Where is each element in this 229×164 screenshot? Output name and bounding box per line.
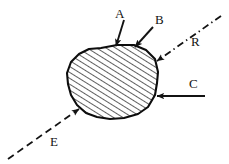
- vector-label-e: E: [50, 134, 58, 149]
- vector-arrow-e: [8, 109, 79, 159]
- vector-label-a: A: [115, 6, 125, 21]
- vector-label-c: C: [189, 76, 198, 91]
- vector-arrow-a: [116, 20, 124, 46]
- vector-label-b: B: [155, 12, 164, 27]
- vector-arrow-r: [157, 16, 221, 61]
- hatched-polygon-body: [67, 45, 158, 119]
- diagram-canvas: ABRCE: [0, 0, 229, 164]
- vector-diagram: ABRCE: [0, 0, 229, 164]
- vector-label-r: R: [191, 34, 200, 49]
- vector-arrow-b: [135, 27, 153, 47]
